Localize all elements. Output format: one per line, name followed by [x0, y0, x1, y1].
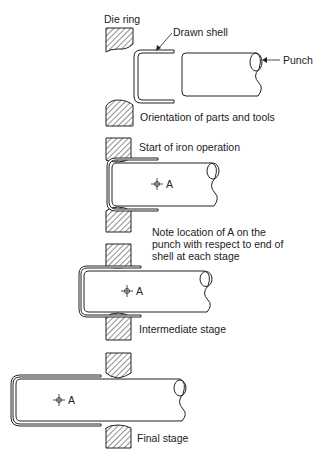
point-a-label: A — [68, 394, 75, 406]
die-ring-top — [106, 28, 133, 52]
punch — [16, 379, 185, 421]
note-text: Note location of A on the punch with res… — [152, 226, 292, 262]
caption-orientation: Orientation of parts and tools — [140, 111, 275, 123]
punch-label: Punch — [283, 54, 313, 66]
drawn-shell-label: Drawn shell — [173, 26, 228, 38]
caption-start: Start of iron operation — [139, 141, 240, 153]
point-a-label: A — [166, 178, 173, 190]
drawn-shell — [134, 50, 174, 103]
point-a-label: A — [136, 285, 143, 297]
die-ring-top — [106, 244, 131, 268]
drawn-shell-leader — [158, 33, 172, 49]
caption-final: Final stage — [137, 432, 188, 444]
die-ring-label: Die ring — [104, 13, 140, 25]
punch — [182, 53, 261, 96]
caption-intermediate: Intermediate stage — [139, 323, 226, 335]
die-ring-top — [106, 353, 131, 378]
punch — [84, 271, 210, 312]
punch — [112, 163, 217, 206]
die-ring-bottom — [106, 100, 133, 126]
die-ring-bottom — [106, 425, 131, 448]
